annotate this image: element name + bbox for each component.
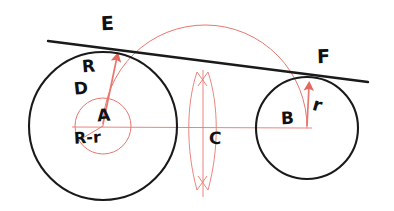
label-radius-difference: R-r — [74, 129, 102, 146]
label-radius-big: R — [81, 57, 96, 75]
label-point-d: D — [73, 79, 89, 97]
label-point-b: B — [281, 110, 295, 128]
label-point-a: A — [96, 107, 110, 125]
bisector-arc-left-tail-bottom — [197, 176, 207, 190]
geometry-figure: E F A B C R D R-r r — [0, 0, 394, 211]
geometry-canvas — [0, 0, 394, 211]
label-point-c: C — [209, 130, 222, 147]
bisector-arc-left-tail — [197, 72, 207, 86]
label-point-f: F — [317, 47, 331, 66]
center-line-ab — [72, 127, 308, 128]
bisector-arc-left — [189, 72, 197, 190]
label-point-e: E — [101, 14, 115, 34]
radius-r-arrow — [307, 86, 309, 126]
